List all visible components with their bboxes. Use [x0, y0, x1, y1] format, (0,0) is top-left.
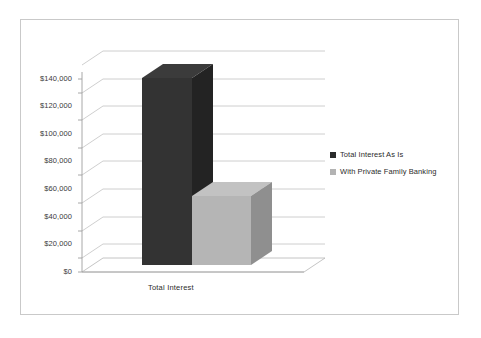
- ytick-label-100000: $100,000: [10, 129, 72, 138]
- ytick-label-140000: $140,000: [10, 74, 72, 83]
- ytick-label-0: $0: [10, 267, 72, 276]
- legend-item-total-interest-as-is[interactable]: Total Interest As Is: [330, 150, 436, 159]
- ytick-label-20000: $20,000: [10, 239, 72, 248]
- legend-label-with-private-family-banking: With Private Family Banking: [340, 167, 436, 176]
- category-label-total-interest: Total Interest: [148, 283, 194, 292]
- ytick-label-80000: $80,000: [10, 156, 72, 165]
- ytick-label-120000: $120,000: [10, 101, 72, 110]
- legend-swatch-light: [330, 169, 336, 175]
- legend-item-with-private-family-banking[interactable]: With Private Family Banking: [330, 167, 436, 176]
- legend-label-total-interest-as-is: Total Interest As Is: [340, 150, 403, 159]
- value-axis: [78, 72, 82, 272]
- chart-legend: Total Interest As Is With Private Family…: [330, 150, 436, 184]
- bar-with-private-family-banking[interactable]: [192, 182, 272, 265]
- ytick-label-60000: $60,000: [10, 184, 72, 193]
- ytick-label-40000: $40,000: [10, 212, 72, 221]
- legend-swatch-dark: [330, 152, 336, 158]
